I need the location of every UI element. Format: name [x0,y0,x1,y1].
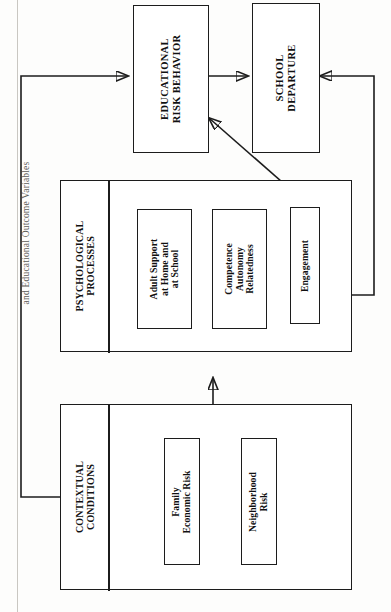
container-contextual-conditions[interactable]: CONTEXTUAL CONDITIONS [60,404,352,590]
node-family-economic-risk[interactable]: Family Economic Risk [164,438,200,565]
psych-header-divider [108,181,110,353]
erb-line-1: EDUCATIONAL [159,35,171,124]
node-engagement[interactable]: Engagement [290,207,320,324]
node-educational-risk-behavior[interactable]: EDUCATIONAL RISK BEHAVIOR [133,5,209,153]
eng-line-1: Engagement [300,239,311,291]
fer-line-2: Economic Risk [182,470,193,533]
sd-line-2: DEPARTURE [286,44,298,111]
node-label: Engagement [300,239,311,291]
node-label: SCHOOL DEPARTURE [274,44,298,111]
node-label: Family Economic Risk [171,470,192,533]
as-line-1: Adult Support [148,239,159,300]
node-adult-support[interactable]: Adult Support at Home and at School [137,209,192,329]
node-label: Neighborhood Risk [248,472,269,532]
scan-page-rule [17,0,18,612]
as-line-2: at Home and [159,239,170,300]
nr-line-2: Risk [259,472,270,532]
cc-line-1: CONTEXTUAL [74,461,85,533]
sd-line-1: SCHOOL [274,44,286,111]
contextual-header-divider [108,405,110,591]
car-line-3: Relatedness [245,243,256,295]
pp-line-2: PROCESSES [85,221,96,312]
car-line-1: Competence [223,243,234,295]
node-label: Competence Autonomy Relatedness [223,243,255,295]
container-label-psychological-processes: PSYCHOLOGICAL PROCESSES [74,221,96,312]
figure-caption: and Educational Outcome Variables [21,103,31,363]
pp-line-1: PSYCHOLOGICAL [74,221,85,312]
erb-line-2: RISK BEHAVIOR [171,35,183,124]
container-label-contextual-conditions: CONTEXTUAL CONDITIONS [74,461,96,533]
node-label: EDUCATIONAL RISK BEHAVIOR [159,35,183,124]
as-line-3: at School [170,239,181,300]
node-school-departure[interactable]: SCHOOL DEPARTURE [252,3,320,153]
figure-canvas: and Educational Outcome Variables [0,0,391,612]
node-label: Adult Support at Home and at School [148,239,180,300]
node-competence-autonomy-relatedness[interactable]: Competence Autonomy Relatedness [212,209,267,329]
cc-line-2: CONDITIONS [85,461,96,533]
node-neighborhood-risk[interactable]: Neighborhood Risk [241,438,277,565]
car-line-2: Autonomy [234,243,245,295]
